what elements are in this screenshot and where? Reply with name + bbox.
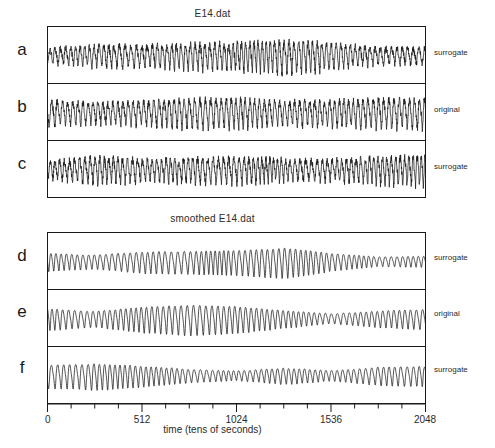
trace-f xyxy=(48,364,426,391)
trace-e xyxy=(48,305,426,336)
trace-c xyxy=(48,154,426,189)
trace-b xyxy=(48,97,426,132)
trace-a xyxy=(48,39,426,76)
signal-traces xyxy=(48,39,426,390)
plot-canvas xyxy=(0,0,495,448)
x-axis-title: time (tens of seconds) xyxy=(0,424,425,435)
panel-frame-f xyxy=(48,347,426,404)
figure-root: E14.dat smoothed E14.dat a b c d e f sur… xyxy=(0,0,495,448)
panel-frame-c xyxy=(48,141,426,198)
x-axis xyxy=(48,404,426,412)
trace-d xyxy=(48,248,426,279)
